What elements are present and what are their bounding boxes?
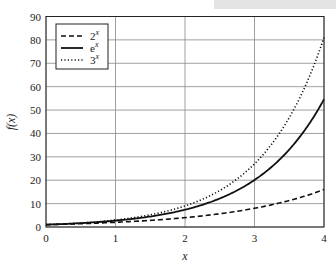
x-tick-label: 3 bbox=[252, 232, 258, 244]
y-tick-label: 0 bbox=[36, 221, 42, 233]
y-tick-label: 30 bbox=[30, 151, 42, 163]
legend-box bbox=[56, 24, 108, 69]
y-tick-label: 80 bbox=[30, 34, 42, 46]
line-chart: 010203040506070809001234 x f(x) 2xex3x bbox=[0, 0, 336, 268]
y-tick-label: 70 bbox=[30, 57, 42, 69]
x-axis-label: x bbox=[181, 249, 188, 263]
legend: 2xex3x bbox=[56, 24, 108, 69]
y-tick-label: 40 bbox=[30, 127, 42, 139]
y-tick-label: 60 bbox=[30, 81, 42, 93]
x-tick-label: 1 bbox=[113, 232, 119, 244]
y-tick-label: 20 bbox=[30, 174, 42, 186]
x-tick-label: 2 bbox=[182, 232, 188, 244]
x-tick-label: 4 bbox=[321, 232, 327, 244]
y-tick-label: 50 bbox=[30, 104, 42, 116]
y-tick-label: 10 bbox=[30, 198, 42, 210]
x-tick-label: 0 bbox=[43, 232, 49, 244]
y-tick-label: 90 bbox=[30, 11, 42, 23]
y-axis-label: f(x) bbox=[4, 114, 18, 131]
